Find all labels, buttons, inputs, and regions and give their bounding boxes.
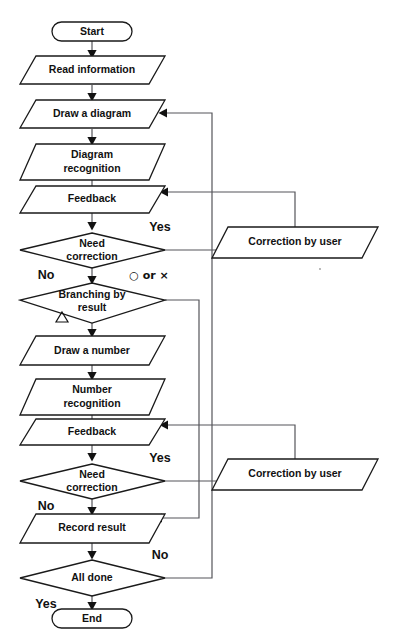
node-feedback-2-label: Feedback [68, 425, 117, 437]
flowchart-canvas: Start Read information Draw a diagram Di… [0, 0, 393, 636]
edge-correction2-to-feedback2 [166, 425, 295, 459]
node-read-information[interactable]: Read information [20, 56, 165, 84]
edge-label-all-done-yes: Yes [35, 597, 57, 611]
node-start-label: Start [80, 25, 104, 37]
edge-label-need-correction-2-yes: Yes [149, 451, 171, 465]
edge-label-need-correction-2-no: No [38, 499, 55, 513]
edge-correction1-to-feedback1 [166, 192, 295, 227]
edge-alldone-no [165, 113, 212, 578]
edge-branching-circle-cross [160, 300, 199, 518]
node-correction-by-user-2-label: Correction by user [248, 467, 341, 479]
arrow-need-correction-2 [87, 453, 96, 462]
node-end[interactable]: End [52, 609, 132, 628]
node-need-correction-1-label-line2: correction [66, 250, 117, 262]
node-branching-by-result[interactable]: Branching by result [20, 283, 165, 323]
node-branching-by-result-label-line1: Branching by [58, 288, 125, 300]
node-record-result[interactable]: Record result [20, 514, 165, 543]
node-number-recognition-label-line2: recognition [63, 397, 120, 409]
node-draw-a-number-label: Draw a number [54, 344, 130, 356]
node-need-correction-1[interactable]: Need correction [20, 233, 165, 268]
node-record-result-label: Record result [58, 521, 126, 533]
node-diagram-recognition-label-line1: Diagram [71, 148, 113, 160]
node-number-recognition-label-line1: Number [72, 383, 112, 395]
node-correction-by-user-1-label: Correction by user [248, 235, 341, 247]
node-read-information-label: Read information [49, 63, 135, 75]
node-feedback-2[interactable]: Feedback [20, 419, 165, 445]
arrow-need-correction-1 [87, 222, 96, 231]
node-end-label: End [82, 612, 102, 624]
node-all-done[interactable]: All done [20, 560, 165, 596]
node-draw-a-diagram[interactable]: Draw a diagram [20, 100, 165, 128]
node-need-correction-2-label-line2: correction [66, 481, 117, 493]
node-correction-by-user-2[interactable]: Correction by user [212, 459, 378, 490]
node-number-recognition[interactable]: Number recognition [20, 379, 165, 415]
edge-label-branching-circle-or-cross: ○ or × [129, 269, 168, 282]
node-all-done-label: All done [71, 571, 113, 583]
node-start[interactable]: Start [52, 22, 132, 41]
edge-label-need-correction-1-no: No [38, 268, 55, 282]
arrow-all-done [87, 551, 96, 560]
flowchart-svg: Start Read information Draw a diagram Di… [0, 0, 393, 636]
edge-label-all-done-no: No [152, 548, 169, 562]
edge-label-need-correction-1-yes: Yes [149, 220, 171, 234]
node-feedback-1-label: Feedback [68, 192, 117, 204]
node-draw-a-diagram-label: Draw a diagram [53, 107, 131, 119]
node-diagram-recognition-label-line2: recognition [63, 162, 120, 174]
scan-speck [319, 268, 321, 270]
node-correction-by-user-1[interactable]: Correction by user [212, 227, 378, 258]
node-feedback-1[interactable]: Feedback [20, 186, 165, 213]
node-need-correction-2-label-line1: Need [79, 468, 105, 480]
node-need-correction-2[interactable]: Need correction [20, 464, 165, 499]
node-diagram-recognition[interactable]: Diagram recognition [20, 144, 165, 180]
node-draw-a-number[interactable]: Draw a number [20, 336, 165, 365]
node-branching-by-result-label-line2: result [78, 301, 107, 313]
node-need-correction-1-label-line1: Need [79, 237, 105, 249]
